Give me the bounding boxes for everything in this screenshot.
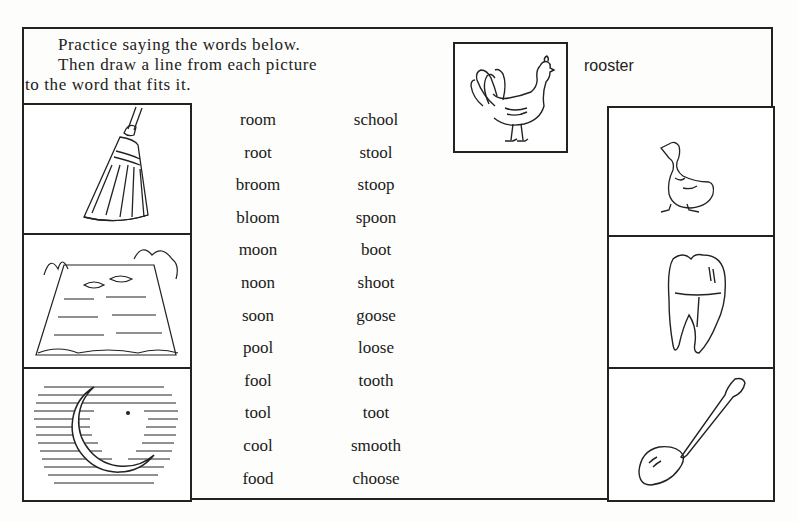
spoon-picture[interactable]: [607, 367, 775, 502]
word-shoot[interactable]: shoot: [358, 273, 395, 293]
word-stoop[interactable]: stoop: [358, 175, 395, 195]
tooth-icon: [609, 237, 773, 367]
word-tooth[interactable]: tooth: [359, 371, 394, 391]
word-fool[interactable]: fool: [244, 371, 271, 391]
word-boot[interactable]: boot: [361, 240, 391, 260]
word-tool[interactable]: tool: [245, 403, 271, 423]
rooster-picture-box[interactable]: [453, 42, 568, 153]
word-stool[interactable]: stool: [359, 143, 392, 163]
instruction-line-2: Then draw a line from each picture: [25, 55, 317, 75]
moon-picture[interactable]: [22, 367, 192, 502]
moon-icon: [24, 369, 190, 500]
instruction-line-3: to the word that fits it.: [25, 75, 317, 95]
pool-icon: [24, 235, 190, 367]
broom-icon: [24, 105, 190, 233]
tooth-picture[interactable]: [607, 235, 775, 369]
word-spoon[interactable]: spoon: [356, 208, 397, 228]
broom-picture[interactable]: [22, 103, 192, 235]
goose-icon: [609, 108, 773, 235]
word-noon[interactable]: noon: [241, 273, 275, 293]
word-moon[interactable]: moon: [239, 240, 278, 260]
pool-picture[interactable]: [22, 233, 192, 369]
word-cool[interactable]: cool: [243, 436, 272, 456]
word-toot[interactable]: toot: [363, 403, 389, 423]
word-school[interactable]: school: [354, 110, 398, 130]
instruction-line-1: Practice saying the words below.: [25, 35, 317, 55]
word-pool[interactable]: pool: [243, 338, 273, 358]
word-room[interactable]: room: [240, 110, 276, 130]
instructions: Practice saying the words below. Then dr…: [25, 35, 317, 95]
word-smooth[interactable]: smooth: [351, 436, 401, 456]
word-broom[interactable]: broom: [236, 175, 280, 195]
word-food[interactable]: food: [242, 469, 273, 489]
spoon-icon: [609, 369, 773, 500]
rooster-icon: [455, 44, 566, 151]
word-root[interactable]: root: [244, 143, 271, 163]
word-bloom[interactable]: bloom: [236, 208, 279, 228]
word-loose[interactable]: loose: [358, 338, 394, 358]
word-soon[interactable]: soon: [242, 306, 274, 326]
word-choose[interactable]: choose: [352, 469, 399, 489]
word-goose[interactable]: goose: [356, 306, 396, 326]
goose-picture[interactable]: [607, 106, 775, 237]
rooster-label: rooster: [584, 57, 634, 75]
